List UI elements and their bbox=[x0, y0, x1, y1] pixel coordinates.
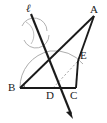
label-vertex-e: E bbox=[80, 50, 87, 61]
label-vertex-b: B bbox=[8, 82, 15, 93]
segment-DE bbox=[53, 61, 78, 88]
segment-CE bbox=[76, 61, 78, 88]
label-line-l: ℓ bbox=[26, 3, 31, 14]
construction-arc-lower-icon bbox=[24, 35, 49, 48]
label-vertex-c: C bbox=[70, 90, 77, 101]
line-l-group bbox=[31, 14, 73, 119]
construction-arc-side-icon bbox=[26, 22, 34, 44]
label-vertex-a: A bbox=[90, 4, 98, 15]
geometry-figure-canvas bbox=[0, 0, 107, 123]
line-l-arrowhead-icon bbox=[66, 111, 73, 119]
geometry-figure: ℓ A B D C E bbox=[0, 0, 107, 123]
label-vertex-d: D bbox=[46, 90, 54, 101]
